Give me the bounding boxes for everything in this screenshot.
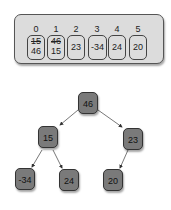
- tree-node: 24: [59, 169, 79, 191]
- tree-node: 20: [103, 169, 123, 191]
- tree-node: -34: [15, 168, 35, 190]
- tree-node: 23: [123, 128, 143, 150]
- tree-node: 15: [38, 126, 58, 148]
- tree-node-root: 46: [78, 92, 98, 114]
